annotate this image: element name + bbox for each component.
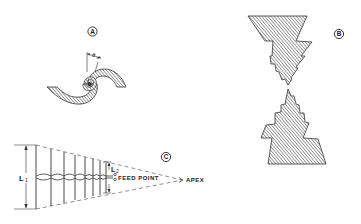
panel-a: A θ o [47,27,126,104]
theta-dimension: θ o [87,52,101,72]
apex-label: APEX [186,177,204,183]
svg-text:B: B [337,30,342,37]
antenna-figure: A θ o B C [0,0,361,224]
svg-text:L: L [19,174,24,183]
svg-text:C: C [164,153,169,160]
dipole-elements [36,145,106,209]
svg-text:A: A [90,28,95,35]
panel-c: C L 1 [14,145,204,209]
panel-b: B [248,16,344,164]
bowtie-lower [261,89,326,164]
bowtie-upper [248,16,312,85]
svg-text:θ: θ [92,52,96,58]
svg-text:2: 2 [116,168,119,174]
feed-point-label: FEED POINT [118,175,159,181]
l1-dimension: L 1 [19,146,28,209]
panel-c-label: C [161,152,170,161]
feed-line [36,173,116,180]
spiral-arm-lower [47,84,97,104]
panel-a-label: A [88,27,97,36]
l2-dimension: L 2 [103,162,119,193]
svg-text:1: 1 [25,177,28,183]
panel-b-label: B [334,29,343,38]
